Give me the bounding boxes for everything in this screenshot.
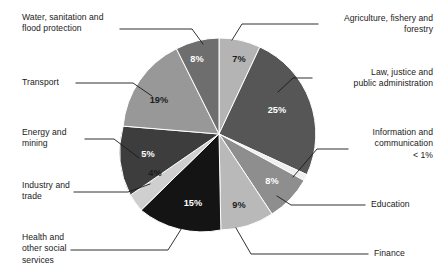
callout-label-agriculture: Agriculture, fishery and forestry [313,13,433,36]
slice-value-water: 8% [190,54,203,64]
callout-label-health-social: Health and other social services [22,232,92,266]
slice-value-industry: 4% [148,168,161,178]
slice-value-agriculture: 7% [232,54,245,64]
leader-line-water [120,29,203,44]
slice-value-finance: 9% [232,200,245,210]
callout-label-finance: Finance [374,248,443,259]
pie-slices [120,38,316,232]
callout-label-law-justice: Law, justice and public administration [313,67,433,90]
slice-value-transport: 19% [150,95,169,105]
leader-line-agriculture [232,24,318,40]
pie-chart-figure: 7% 25% 8% 9% 15% 4% 5% 19% 8% Water, san… [0,0,443,279]
callout-label-education: Education [371,199,441,210]
callout-label-transport: Transport [22,77,92,88]
slice-value-health: 15% [184,198,203,208]
callout-label-water-sanitation: Water, sanitation and flood protection [22,12,130,35]
callout-label-information-communication: Information and communication < 1% [313,127,433,161]
slice-value-education: 8% [265,176,278,186]
slice-value-energy: 5% [141,149,154,159]
callout-label-energy-mining: Energy and mining [22,127,92,150]
leader-line-finance [236,228,368,254]
slice-value-law: 25% [268,105,287,115]
callout-label-industry-trade: Industry and trade [22,180,92,203]
